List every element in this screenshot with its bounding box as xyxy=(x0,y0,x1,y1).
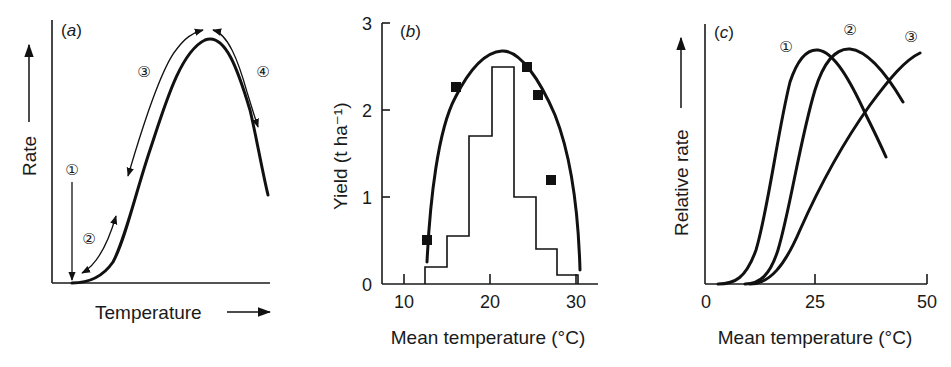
panel-c-tag: (c) xyxy=(714,23,734,42)
panel-c-x-tick-label: 0 xyxy=(701,292,711,312)
panel-b-y-tick-label: 1 xyxy=(362,188,372,208)
panel-b: 3 2 1 0 10 20 30 (b) Yield (t ha⁻¹) Mean… xyxy=(330,14,598,348)
panel-a-label-3: ③ xyxy=(137,63,150,80)
panel-a-x-label: Temperature xyxy=(95,302,202,323)
panel-c-x-label: Mean temperature (°C) xyxy=(718,327,913,348)
panel-b-x-label: Mean temperature (°C) xyxy=(391,327,586,348)
panel-c-label-1: ① xyxy=(779,38,792,55)
panel-a-label-1: ① xyxy=(65,161,78,178)
panel-b-y-tick-label: 3 xyxy=(362,14,372,34)
panel-c: 0 25 50 (c) Relative rate Mean temperatu… xyxy=(671,21,937,348)
panel-a-label-2: ② xyxy=(82,230,95,247)
figure: (a) Rate Temperature ① ② ③ ④ xyxy=(0,0,951,367)
panel-b-x-tick-label: 30 xyxy=(566,292,586,312)
data-point xyxy=(546,175,556,185)
panel-c-curve-1 xyxy=(718,50,886,284)
panel-c-x-tick-label: 25 xyxy=(805,292,825,312)
panel-b-y-tick-label: 0 xyxy=(362,275,372,295)
panel-a-tag: (a) xyxy=(61,21,82,40)
data-point xyxy=(522,62,532,72)
panel-c-x-tick-label: 50 xyxy=(917,292,937,312)
panel-b-fitted-curve xyxy=(427,51,580,270)
panel-c-curve-2 xyxy=(745,49,903,284)
panel-a: (a) Rate Temperature ① ② ③ ④ xyxy=(19,20,270,323)
panel-b-x-tick-label: 20 xyxy=(480,292,500,312)
panel-c-y-label: Relative rate xyxy=(671,129,692,236)
panel-b-x-tick-label: 10 xyxy=(394,292,414,312)
panel-b-y-tick-label: 2 xyxy=(362,101,372,121)
panel-c-label-3: ③ xyxy=(904,28,917,45)
panel-a-label-4: ④ xyxy=(256,63,269,80)
data-point xyxy=(422,235,432,245)
panel-b-y-label: Yield (t ha⁻¹) xyxy=(330,102,351,210)
panel-b-tag: (b) xyxy=(400,22,421,41)
data-point xyxy=(533,90,543,100)
data-point xyxy=(451,82,461,92)
panel-c-label-2: ② xyxy=(843,21,856,38)
panel-a-y-label: Rate xyxy=(19,136,40,176)
panel-a-rate-curve xyxy=(72,39,268,283)
